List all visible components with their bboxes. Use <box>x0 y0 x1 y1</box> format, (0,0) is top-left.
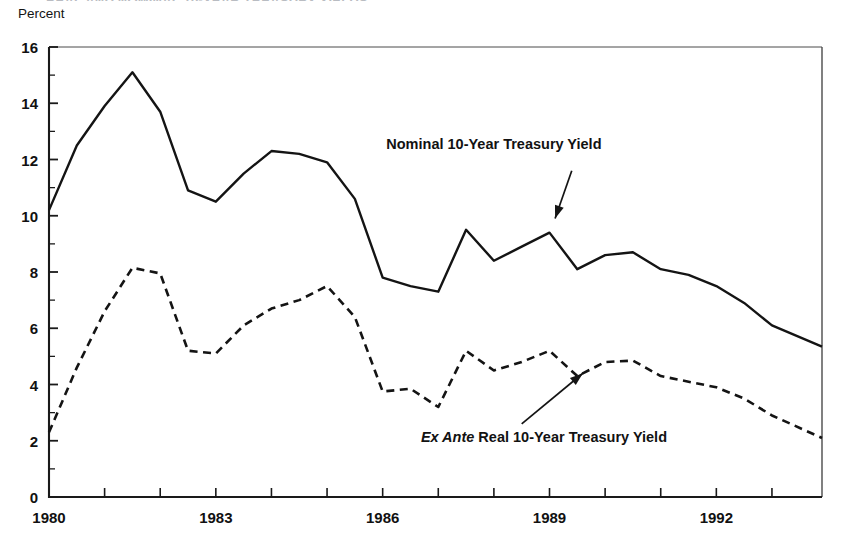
chart-canvas <box>0 0 842 535</box>
y-tick-label: 4 <box>4 376 38 393</box>
y-tick-label: 12 <box>4 151 38 168</box>
x-tick-label: 1980 <box>32 509 65 526</box>
real-series-label: Ex Ante Real 10-Year Treasury Yield <box>421 429 667 445</box>
real-yield-line <box>49 268 822 438</box>
y-tick-label: 8 <box>4 264 38 281</box>
x-tick-label: 1992 <box>700 509 733 526</box>
cut-off-figure-title: REAL AND NOMINAL 10-YEAR TREASURY YIELDS <box>46 0 368 1</box>
nominal-yield-line <box>49 72 822 346</box>
y-axis-unit-label: Percent <box>18 6 65 21</box>
label-roman-part: Real 10-Year Treasury Yield <box>474 429 667 445</box>
y-tick-label: 0 <box>4 489 38 506</box>
nominal-series-label: Nominal 10-Year Treasury Yield <box>386 136 601 152</box>
data-series <box>49 72 822 438</box>
y-tick-label: 16 <box>4 39 38 56</box>
y-tick-label: 10 <box>4 207 38 224</box>
x-tick-label: 1989 <box>533 509 566 526</box>
annotation-arrows <box>522 171 583 424</box>
nominal-series-label-arrow-head <box>555 205 564 219</box>
x-tick-label: 1983 <box>199 509 232 526</box>
chart-figure: REAL AND NOMINAL 10-YEAR TREASURY YIELDS… <box>0 0 842 535</box>
y-tick-label: 6 <box>4 320 38 337</box>
label-italic-part: Ex Ante <box>421 429 474 445</box>
y-tick-label: 2 <box>4 432 38 449</box>
y-tick-label: 14 <box>4 95 38 112</box>
x-tick-label: 1986 <box>366 509 399 526</box>
